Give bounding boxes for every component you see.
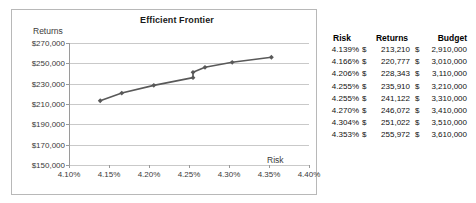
y-tick-label: $190,000 — [32, 120, 65, 129]
table-row: 4.255%$235,910$3,210,000 — [325, 81, 467, 93]
portfolio-data-table: Risk Returns Budget 4.139%$213,210$2,910… — [325, 33, 467, 142]
cell-returns: 213,210 — [374, 44, 410, 56]
column-header-spacer-2 — [410, 33, 425, 44]
y-tick-label: $230,000 — [32, 79, 65, 88]
table-body: 4.139%$213,210$2,910,0004.166%$220,777$3… — [325, 44, 467, 142]
cell-returns: 255,972 — [374, 129, 410, 141]
cell-budget: 3,010,000 — [425, 56, 467, 68]
y-tick-label: $170,000 — [32, 140, 65, 149]
cell-returns: 241,122 — [374, 93, 410, 105]
column-header-budget: Budget — [425, 33, 467, 44]
cell-currency-budget: $ — [410, 117, 425, 129]
y-axis-title: Returns — [33, 26, 63, 36]
y-tick-label: $210,000 — [32, 100, 65, 109]
x-tick-label: 4.35% — [258, 170, 281, 179]
table-row: 4.270%$246,072$3,410,000 — [325, 105, 467, 117]
cell-returns: 228,343 — [374, 68, 410, 80]
series-line — [100, 57, 271, 100]
data-point-marker — [269, 55, 274, 60]
column-header-returns: Returns — [374, 33, 410, 44]
y-axis-tick-labels: $270,000$250,000$230,000$210,000$190,000… — [12, 43, 65, 165]
data-point-marker — [203, 65, 208, 70]
cell-currency-budget: $ — [410, 44, 425, 56]
x-tick-mark — [149, 165, 150, 168]
x-tick-mark — [269, 165, 270, 168]
series-line-efficient-frontier — [69, 43, 309, 165]
table-row: 4.206%$228,343$3,110,000 — [325, 68, 467, 80]
cell-currency-budget: $ — [410, 81, 425, 93]
cell-budget: 3,410,000 — [425, 105, 467, 117]
cell-currency-returns: $ — [359, 44, 374, 56]
cell-currency-returns: $ — [359, 56, 374, 68]
cell-returns: 220,777 — [374, 56, 410, 68]
cell-currency-returns: $ — [359, 68, 374, 80]
data-point-marker — [191, 70, 196, 75]
cell-budget: 2,910,000 — [425, 44, 467, 56]
table-row: 4.166%$220,777$3,010,000 — [325, 56, 467, 68]
table-row: 4.353%$255,972$3,610,000 — [325, 129, 467, 141]
cell-budget: 3,610,000 — [425, 129, 467, 141]
cell-returns: 246,072 — [374, 105, 410, 117]
plot-area — [69, 43, 309, 165]
cell-currency-returns: $ — [359, 129, 374, 141]
cell-budget: 3,510,000 — [425, 117, 467, 129]
cell-currency-budget: $ — [410, 56, 425, 68]
x-tick-label: 4.25% — [178, 170, 201, 179]
cell-risk: 4.255% — [325, 93, 359, 105]
table-row: 4.255%$241,122$3,310,000 — [325, 93, 467, 105]
table-row: 4.304%$251,022$3,510,000 — [325, 117, 467, 129]
column-header-spacer-1 — [359, 33, 374, 44]
cell-currency-budget: $ — [410, 93, 425, 105]
cell-currency-budget: $ — [410, 105, 425, 117]
y-tick-label: $150,000 — [32, 161, 65, 170]
cell-risk: 4.206% — [325, 68, 359, 80]
x-tick-label: 4.20% — [138, 170, 161, 179]
x-tick-mark — [309, 165, 310, 168]
x-tick-mark — [229, 165, 230, 168]
table-row: 4.139%$213,210$2,910,000 — [325, 44, 467, 56]
cell-returns: 251,022 — [374, 117, 410, 129]
cell-currency-returns: $ — [359, 81, 374, 93]
cell-risk: 4.270% — [325, 105, 359, 117]
cell-risk: 4.139% — [325, 44, 359, 56]
cell-risk: 4.353% — [325, 129, 359, 141]
cell-budget: 3,210,000 — [425, 81, 467, 93]
cell-risk: 4.166% — [325, 56, 359, 68]
x-tick-label: 4.15% — [98, 170, 121, 179]
cell-currency-returns: $ — [359, 93, 374, 105]
x-tick-mark — [109, 165, 110, 168]
data-point-marker — [98, 98, 103, 103]
x-tick-label: 4.30% — [218, 170, 241, 179]
data-point-marker — [191, 75, 196, 80]
cell-budget: 3,110,000 — [425, 68, 467, 80]
x-tick-mark — [189, 165, 190, 168]
x-tick-label: 4.40% — [298, 170, 321, 179]
data-point-marker — [151, 83, 156, 88]
x-axis-tick-labels: 4.10%4.15%4.20%4.25%4.30%4.35%4.40% — [69, 170, 309, 184]
cell-currency-budget: $ — [410, 129, 425, 141]
cell-risk: 4.304% — [325, 117, 359, 129]
x-tick-label: 4.10% — [58, 170, 81, 179]
x-tick-mark — [69, 165, 70, 168]
column-header-risk: Risk — [325, 33, 359, 44]
efficient-frontier-chart-panel: Efficient Frontier Returns Risk $270,000… — [11, 9, 317, 195]
chart-title: Efficient Frontier — [107, 15, 247, 25]
y-tick-label: $270,000 — [32, 39, 65, 48]
y-tick-label: $250,000 — [32, 59, 65, 68]
cell-currency-returns: $ — [359, 117, 374, 129]
cell-currency-budget: $ — [410, 68, 425, 80]
data-point-marker — [119, 91, 124, 96]
data-point-marker — [230, 60, 235, 65]
cell-currency-returns: $ — [359, 105, 374, 117]
cell-returns: 235,910 — [374, 81, 410, 93]
table-header-row: Risk Returns Budget — [325, 33, 467, 44]
cell-budget: 3,310,000 — [425, 93, 467, 105]
cell-risk: 4.255% — [325, 81, 359, 93]
